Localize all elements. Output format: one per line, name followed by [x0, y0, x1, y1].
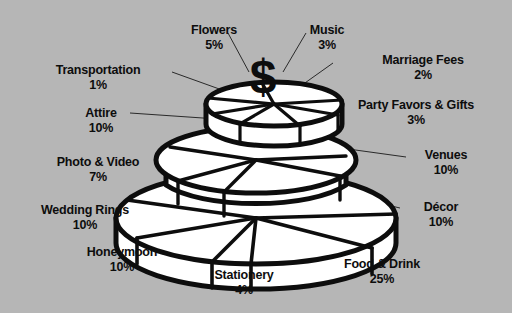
callout-food-drink: Food & Drink 25% [330, 257, 434, 286]
callout-marriage-fees-value: 2% [364, 68, 482, 83]
callout-marriage-fees: Marriage Fees 2% [364, 53, 482, 82]
callout-food-drink-value: 25% [330, 272, 434, 287]
callout-honeymoon-value: 10% [76, 260, 168, 275]
callout-party-favors-gifts-value: 3% [336, 113, 496, 128]
wedding-budget-figure: $ Flowers 5% Music 3% Marriage Fees 2% P… [0, 0, 522, 322]
callout-music-label: Music [310, 23, 344, 37]
callout-venues-label: Venues [425, 148, 468, 162]
callout-decor-value: 10% [410, 215, 472, 230]
callout-stationery: Stationery 4% [206, 268, 282, 297]
callout-wedding-rings-label: Wedding Rings [41, 203, 129, 217]
callout-flowers-value: 5% [178, 38, 250, 53]
dollar-sign-icon: $ [250, 50, 277, 103]
callout-flowers: Flowers 5% [178, 23, 250, 52]
callout-venues-value: 10% [412, 163, 480, 178]
callout-attire-label: Attire [85, 106, 116, 120]
callout-decor: Décor 10% [410, 200, 472, 229]
callout-stationery-label: Stationery [214, 268, 273, 282]
callout-marriage-fees-label: Marriage Fees [382, 53, 463, 67]
callout-food-drink-label: Food & Drink [344, 257, 420, 271]
chart-plot-area: $ Flowers 5% Music 3% Marriage Fees 2% P… [0, 0, 512, 313]
callout-attire: Attire 10% [77, 106, 125, 135]
svg-text:$: $ [250, 50, 277, 103]
callout-party-favors-gifts: Party Favors & Gifts 3% [336, 98, 496, 127]
callout-music-value: 3% [300, 38, 354, 53]
callout-honeymoon: Honeymoon 10% [76, 245, 168, 274]
callout-stationery-value: 4% [206, 283, 282, 298]
callout-transportation-value: 1% [30, 78, 166, 93]
callout-decor-label: Décor [424, 200, 458, 214]
callout-photo-video: Photo & Video 7% [46, 155, 150, 184]
callout-photo-video-value: 7% [46, 170, 150, 185]
callout-transportation-label: Transportation [56, 63, 141, 77]
callout-flowers-label: Flowers [191, 23, 237, 37]
callout-wedding-rings: Wedding Rings 10% [27, 203, 143, 232]
callout-wedding-rings-value: 10% [27, 218, 143, 233]
callout-transportation: Transportation 1% [30, 63, 166, 92]
callout-venues: Venues 10% [412, 148, 480, 177]
callout-photo-video-label: Photo & Video [57, 155, 140, 169]
callout-honeymoon-label: Honeymoon [87, 245, 157, 259]
callout-music: Music 3% [300, 23, 354, 52]
callout-attire-value: 10% [77, 121, 125, 136]
callout-party-favors-gifts-label: Party Favors & Gifts [358, 98, 474, 112]
